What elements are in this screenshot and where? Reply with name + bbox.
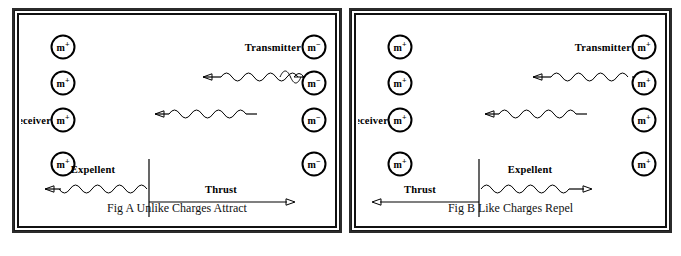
charge-token: m+ xyxy=(51,71,76,96)
label-expellent: Expellent xyxy=(508,164,552,175)
charge-token: m+ xyxy=(51,35,76,60)
charge-token: m+ xyxy=(388,71,413,96)
label-transmitter: Transmitter xyxy=(245,42,301,53)
charge-token-transmitter: m− xyxy=(302,35,327,60)
charge-token: m+ xyxy=(632,108,657,133)
charge-token-receiver: m+ xyxy=(388,108,413,133)
figure-panel-b: m+ m+ m+ m+ m+ m+ m+ m+ xyxy=(351,10,670,231)
panel-b-caption: Fig B Like Charges Repel xyxy=(358,201,663,216)
label-expellent: Expellent xyxy=(71,164,115,175)
charge-token: m− xyxy=(302,71,327,96)
label-thrust: Thrust xyxy=(205,184,237,195)
label-receiver: Receiver xyxy=(21,115,51,126)
charge-token: m− xyxy=(302,108,327,133)
charge-token-expellent-source: m+ xyxy=(388,152,413,177)
charge-token-transmitter: m+ xyxy=(632,35,657,60)
panel-b-drawing-area: m+ m+ m+ m+ m+ m+ m+ m+ xyxy=(358,17,663,224)
charge-token: m+ xyxy=(388,35,413,60)
panel-a-caption: Fig A Unlike Charges Attract xyxy=(21,201,333,216)
charge-token: m− xyxy=(302,152,327,177)
label-thrust: Thrust xyxy=(404,184,436,195)
label-receiver: Receiver xyxy=(358,115,388,126)
charge-token: m+ xyxy=(632,71,657,96)
figure-panel-a: m+ m+ m+ m+ m− m− m− m− xyxy=(14,10,340,231)
figure-canvas: m+ m+ m+ m+ m− m− m− m− xyxy=(0,0,681,256)
charge-token-receiver: m+ xyxy=(51,108,76,133)
charge-token: m+ xyxy=(632,152,657,177)
label-transmitter: Transmitter xyxy=(575,42,631,53)
panel-a-drawing-area: m+ m+ m+ m+ m− m− m− m− xyxy=(21,17,333,224)
